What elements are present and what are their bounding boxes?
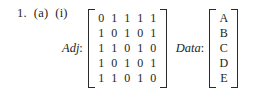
page-canvas: 1. (a) (i) Adj: 0 1 1 1 1 1 0 1 0: [0, 0, 267, 94]
data-vector-rows: A B C D E: [216, 11, 231, 86]
matrix-expression: Adj: 0 1 1 1 1 1 0 1 0 1: [62, 8, 238, 88]
table-row: 1 1 0 1 0: [95, 71, 160, 86]
matrix-cell: 1: [134, 41, 147, 56]
adjacency-label-colon: :: [79, 41, 82, 55]
data-vector: A B C D E: [209, 9, 238, 88]
problem-number: 1.: [17, 6, 27, 20]
matrix-cell: 1: [121, 56, 134, 71]
matrix-cell: 1: [121, 26, 134, 41]
left-bracket-icon: [209, 9, 216, 88]
table-row: 0 1 1 1 1: [95, 11, 160, 26]
list-item: C: [216, 41, 231, 56]
list-item: D: [216, 56, 231, 71]
matrix-cell: 0: [108, 56, 121, 71]
matrix-cell: 0: [95, 11, 108, 26]
matrix-cell: 0: [121, 71, 134, 86]
matrix-cell: 1: [108, 71, 121, 86]
matrix-cell: 1: [95, 71, 108, 86]
matrix-cell: 1: [121, 11, 134, 26]
matrix-cell: 1: [95, 41, 108, 56]
list-item: E: [216, 71, 231, 86]
right-bracket-icon: [160, 9, 167, 88]
adjacency-matrix: 0 1 1 1 1 1 0 1 0 1 1 1 0 1: [88, 9, 167, 88]
matrix-cell: 1: [108, 11, 121, 26]
table-row: 1 0 1 0 1: [95, 56, 160, 71]
matrix-cell: 0: [121, 41, 134, 56]
matrix-cell: 0: [147, 71, 160, 86]
right-bracket-icon: [231, 9, 238, 88]
matrix-cell: 1: [95, 56, 108, 71]
vector-cell: E: [216, 71, 231, 86]
matrix-cell: 1: [134, 71, 147, 86]
vector-cell: A: [216, 11, 231, 26]
matrix-cell: 1: [134, 11, 147, 26]
vector-cell: C: [216, 41, 231, 56]
data-label: Data:: [176, 41, 204, 55]
vector-cell: D: [216, 56, 231, 71]
matrix-cell: 1: [108, 41, 121, 56]
matrix-cell: 1: [95, 26, 108, 41]
matrix-cell: 1: [147, 26, 160, 41]
problem-label: 1. (a) (i): [17, 6, 68, 20]
matrix-cell: 1: [147, 56, 160, 71]
table-row: 1 1 0 1 0: [95, 41, 160, 56]
vector-cell: B: [216, 26, 231, 41]
matrix-cell: 1: [147, 11, 160, 26]
left-bracket-icon: [88, 9, 95, 88]
adjacency-label: Adj:: [62, 41, 83, 55]
adjacency-matrix-rows: 0 1 1 1 1 1 0 1 0 1 1 1 0 1: [95, 11, 160, 86]
table-row: 1 0 1 0 1: [95, 26, 160, 41]
matrix-cell: 0: [108, 26, 121, 41]
matrix-cell: 0: [147, 41, 160, 56]
data-label-colon: :: [201, 41, 204, 55]
problem-part: (a): [34, 6, 48, 20]
data-label-text: Data: [176, 41, 201, 55]
list-item: A: [216, 11, 231, 26]
matrix-cell: 0: [134, 26, 147, 41]
adjacency-label-text: Adj: [62, 41, 79, 55]
matrix-cell: 0: [134, 56, 147, 71]
list-item: B: [216, 26, 231, 41]
